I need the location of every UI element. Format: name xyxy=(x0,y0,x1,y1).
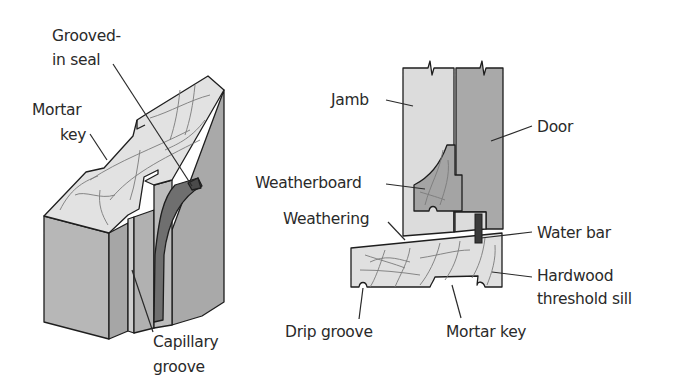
label-mortar-key-left-2: key xyxy=(60,126,86,144)
water-bar xyxy=(475,214,482,243)
label-jamb: Jamb xyxy=(330,91,369,109)
label-mortar-key-right: Mortar key xyxy=(446,323,526,341)
label-grooved-in-seal-1: Grooved- xyxy=(52,27,121,45)
threshold-diagram: Grooved- in seal Mortar key Capillary gr… xyxy=(0,0,673,388)
block-front-middle xyxy=(134,210,154,333)
label-drip-groove: Drip groove xyxy=(285,323,373,341)
label-mortar-key-left-1: Mortar xyxy=(32,101,82,119)
leader-drip-groove xyxy=(359,288,363,319)
block-front-face xyxy=(44,216,109,339)
label-hardwood-1: Hardwood xyxy=(537,267,613,285)
block-front-strip xyxy=(109,223,128,339)
label-weatherboard: Weatherboard xyxy=(255,174,361,192)
label-weathering: Weathering xyxy=(283,210,369,228)
label-grooved-in-seal-2: in seal xyxy=(52,51,100,69)
threshold-cross-section xyxy=(351,61,503,287)
label-hardwood-2: threshold sill xyxy=(537,290,632,308)
label-capillary-groove-1: Capillary xyxy=(153,333,219,351)
leader-mortar-key-right xyxy=(452,285,461,318)
leader-mortar-key-left xyxy=(90,134,107,160)
label-door: Door xyxy=(537,118,574,136)
label-water-bar: Water bar xyxy=(537,224,612,242)
label-capillary-groove-2: groove xyxy=(153,358,205,376)
door xyxy=(456,61,503,229)
